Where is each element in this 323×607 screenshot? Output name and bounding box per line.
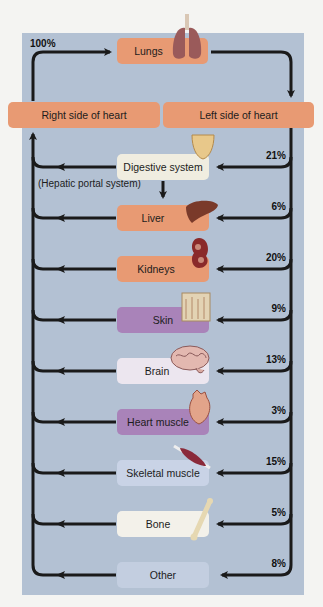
organ-label: Skin: [153, 314, 173, 326]
organ-label: Bone: [146, 518, 171, 530]
left-heart-bar: Left side of heart: [163, 102, 314, 128]
bone-icon: [188, 497, 216, 543]
organ-label: Kidneys: [137, 263, 174, 275]
flow-percent-skin: 9%: [246, 303, 286, 314]
heart-icon: [187, 390, 213, 426]
flow-percent-bone: 5%: [246, 507, 286, 518]
flow-percent-heart-muscle: 3%: [246, 405, 286, 416]
flow-percent-digestive: 21%: [246, 150, 286, 161]
lungs-label: Lungs: [134, 45, 163, 57]
brain-icon: [170, 344, 212, 376]
liver-icon: [184, 199, 220, 225]
flow-percent-brain: 13%: [246, 354, 286, 365]
muscle-icon: [170, 442, 214, 472]
left-heart-label: Left side of heart: [199, 109, 277, 121]
flow-percent-other: 8%: [246, 558, 286, 569]
lungs-icon: [170, 14, 204, 62]
organ-label: Heart muscle: [127, 416, 189, 428]
total-flow-percent: 100%: [30, 38, 70, 49]
organ-label: Digestive system: [123, 161, 202, 173]
right-heart-label: Right side of heart: [41, 109, 126, 121]
organ-label: Other: [150, 569, 176, 581]
flow-percent-liver: 6%: [246, 201, 286, 212]
skin-icon: [180, 291, 212, 323]
kidney-icon: [188, 236, 210, 270]
organ-label: Liver: [142, 212, 165, 224]
flow-percent-skeletal-muscle: 15%: [246, 456, 286, 467]
flow-percent-kidneys: 20%: [246, 252, 286, 263]
stomach-icon: [190, 133, 216, 161]
organ-box-other: Other: [117, 562, 209, 588]
right-heart-bar: Right side of heart: [8, 102, 160, 128]
organ-label: Brain: [145, 365, 170, 377]
